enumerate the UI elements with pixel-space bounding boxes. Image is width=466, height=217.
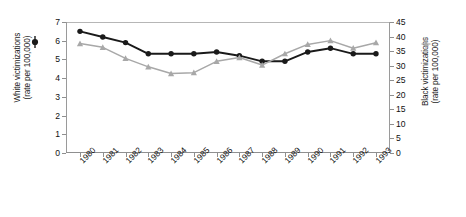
right-axis-tick-label: 0 (396, 149, 401, 158)
data-point-marker (100, 34, 105, 39)
right-axis-tick-label: 10 (396, 120, 406, 129)
left-axis-tick-label: 0 (55, 149, 60, 158)
right-axis-tick-label: 5 (396, 134, 401, 143)
data-point-marker (191, 51, 196, 56)
left-axis-tick-label: 7 (55, 18, 60, 27)
data-point-marker (373, 51, 378, 56)
right-axis-tick-label: 30 (396, 61, 406, 70)
data-point-marker (282, 59, 287, 64)
right-axis-tick (390, 109, 394, 110)
data-point-marker (328, 46, 333, 51)
right-axis-tick-label: 20 (396, 90, 406, 99)
right-axis-title: Black victimizations (rate per 100,000) (421, 13, 440, 131)
right-axis-tick-label: 45 (396, 18, 406, 27)
data-point-marker (305, 49, 310, 54)
data-point-marker (123, 40, 128, 45)
right-axis-tick (390, 95, 394, 96)
left-axis-title-line2: (rate per 100,000) (23, 9, 33, 127)
right-axis-tick (390, 80, 394, 81)
data-point-marker (351, 51, 356, 56)
left-axis-title-line1: White victimizations (13, 9, 23, 127)
right-axis-tick-label: 15 (396, 105, 406, 114)
left-axis-tick (62, 153, 66, 154)
right-axis-title-line1: Black victimizations (421, 13, 431, 131)
data-point-marker (214, 49, 219, 54)
gray-triangle-marker (420, 36, 432, 52)
plot-area: 01234567 051015202530354045 198019811982… (66, 22, 390, 153)
series-line (80, 41, 376, 74)
right-axis-tick (390, 51, 394, 52)
chart-figure: White victimizations (rate per 100,000) … (0, 0, 466, 217)
series-layer (66, 22, 390, 153)
right-axis-tick (390, 66, 394, 67)
right-axis-tick (390, 124, 394, 125)
left-axis-tick-label: 6 (55, 36, 60, 45)
right-axis-title-line2: (rate per 100,000) (431, 13, 441, 131)
right-axis-tick-label: 35 (396, 47, 406, 56)
left-axis-tick-label: 5 (55, 55, 60, 64)
data-point-marker (168, 51, 173, 56)
right-axis-tick (390, 22, 394, 23)
data-point-marker (77, 29, 82, 34)
black-filled-circle-marker (29, 35, 41, 49)
left-axis-tick-label: 4 (55, 74, 60, 83)
right-axis-tick-label: 25 (396, 76, 406, 85)
left-axis-tick-label: 1 (55, 130, 60, 139)
right-axis-tick-label: 40 (396, 32, 406, 41)
left-axis-title: White victimizations (rate per 100,000) (13, 9, 32, 127)
left-axis-tick-label: 3 (55, 93, 60, 102)
series-black-victimizations (77, 38, 379, 77)
left-axis-tick-label: 2 (55, 111, 60, 120)
right-axis-tick (390, 138, 394, 139)
right-axis-tick (390, 37, 394, 38)
data-point-marker (146, 51, 151, 56)
